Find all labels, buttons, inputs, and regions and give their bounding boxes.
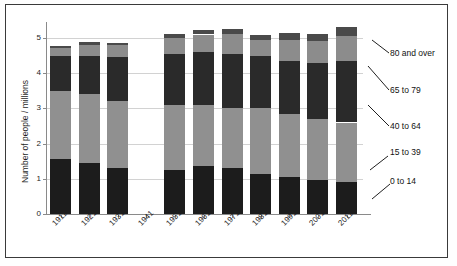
bar-segment [307, 41, 328, 63]
bar-segment [50, 46, 71, 48]
bar-segment [193, 52, 214, 105]
bar-segment [107, 45, 128, 57]
y-axis-tick-label: 1 [27, 175, 41, 183]
bar-segment [107, 168, 128, 214]
bar-segment [307, 63, 328, 119]
bar-segment [336, 123, 357, 182]
bar-segment [50, 56, 71, 91]
bar-segment [250, 56, 271, 109]
bar-segment [164, 34, 185, 38]
bar-segment [250, 174, 271, 214]
bar-segment [50, 48, 71, 56]
bar-segment [164, 170, 185, 214]
legend-label-40-to-64: 40 to 64 [390, 122, 421, 131]
y-axis-tick-label: 3 [27, 104, 41, 112]
bar-2001[interactable] [307, 34, 328, 214]
bar-1951[interactable] [164, 34, 185, 214]
chart-figure: Number of people / millions 012345 19111… [0, 0, 457, 266]
bar-segment [279, 61, 300, 114]
bar-segment [279, 33, 300, 39]
bar-segment [250, 40, 271, 56]
bar-1931[interactable] [107, 43, 128, 214]
bar-segment [164, 54, 185, 105]
bar-1991[interactable] [279, 33, 300, 214]
bar-segment [193, 105, 214, 167]
bar-segment [279, 40, 300, 61]
bar-segment [222, 54, 243, 109]
bar-segment [164, 38, 185, 54]
bar-segment [107, 57, 128, 101]
bar-segment [107, 101, 128, 168]
bar-segment [222, 29, 243, 34]
legend-label-65-to-79: 65 to 79 [390, 86, 421, 95]
legend-label-80-and-over: 80 and over [390, 49, 435, 58]
bar-2011[interactable] [336, 27, 357, 214]
y-axis-tick [43, 214, 47, 215]
bar-segment [307, 34, 328, 41]
bar-segment [79, 163, 100, 214]
bar-segment [164, 105, 185, 170]
legend-label-15-to-39: 15 to 39 [390, 148, 421, 157]
bar-segment [336, 27, 357, 36]
bar-segment [279, 114, 300, 177]
bar-segment [50, 91, 71, 160]
bar-segment [193, 35, 214, 53]
bar-segment [336, 61, 357, 123]
bar-segment [107, 43, 128, 46]
bar-segment [279, 177, 300, 214]
bar-segment [250, 108, 271, 173]
legend-label-0-to-14: 0 to 14 [390, 177, 416, 186]
bar-segment [79, 45, 100, 56]
bar-segment [222, 34, 243, 53]
bar-1971[interactable] [222, 29, 243, 214]
bar-segment [50, 159, 71, 214]
bar-1981[interactable] [250, 34, 271, 214]
plot-area [47, 26, 363, 214]
y-axis-tick-label: 0 [27, 210, 41, 218]
bar-segment [336, 36, 357, 61]
bar-segment [79, 94, 100, 163]
bar-segment [307, 119, 328, 180]
bar-1921[interactable] [79, 42, 100, 214]
bar-segment [193, 30, 214, 34]
y-axis-tick-label: 5 [27, 34, 41, 42]
y-axis-title: Number of people / millions [20, 80, 30, 183]
y-axis-tick-label: 2 [27, 140, 41, 148]
bar-segment [222, 168, 243, 214]
bar-segment [193, 166, 214, 214]
bar-segment [222, 108, 243, 168]
bar-1911[interactable] [50, 46, 71, 214]
bar-segment [79, 42, 100, 45]
bar-segment [250, 35, 271, 40]
bar-1961[interactable] [193, 30, 214, 214]
bar-segment [79, 56, 100, 95]
y-axis-tick-label: 4 [27, 69, 41, 77]
